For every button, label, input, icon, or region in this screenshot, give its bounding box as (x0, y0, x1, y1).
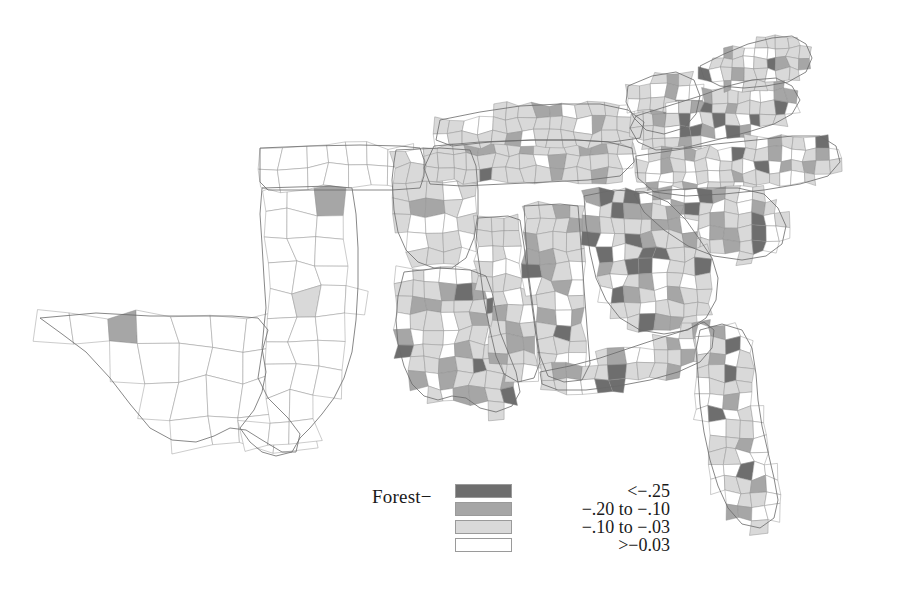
county-polygon (408, 371, 428, 391)
county-polygon (695, 273, 712, 290)
county-polygon (488, 353, 508, 364)
county-polygon (491, 167, 508, 183)
county-polygon (667, 260, 685, 274)
county-polygon (654, 314, 671, 331)
county-polygon (550, 116, 563, 129)
county-polygon (752, 225, 767, 242)
county-polygon (682, 232, 697, 249)
map-legend: Forest− <−.25−.20 to −.10−.10 to −.03>−0… (372, 476, 672, 564)
county-polygon (611, 286, 624, 303)
forest-change-legend-title: Forest− (372, 486, 432, 508)
county-polygon (637, 348, 655, 363)
county-polygon (522, 201, 540, 218)
legend-label-class-2: −.20 to −.10 (524, 500, 670, 518)
legend-label-class-1: <−.25 (524, 482, 670, 500)
county-polygon (731, 68, 744, 82)
county-polygon (764, 213, 776, 226)
county-polygon (697, 302, 713, 315)
county-polygon (596, 247, 614, 263)
legend-swatch-column (455, 484, 515, 556)
county-polygon (595, 348, 607, 365)
county-polygon (625, 362, 638, 380)
county-polygon (611, 202, 624, 219)
county-polygon (624, 203, 642, 219)
county-polygon (441, 301, 454, 313)
county-polygon (315, 237, 348, 267)
county-polygon (697, 289, 712, 304)
county-polygon (289, 419, 323, 445)
county-polygon (744, 134, 758, 150)
county-polygon (640, 84, 651, 99)
county-polygon (768, 146, 782, 162)
county-polygon (137, 343, 179, 384)
county-polygon (639, 314, 656, 333)
county-polygon (638, 98, 651, 111)
county-polygon (439, 282, 457, 301)
county-polygon (774, 212, 790, 228)
county-polygon (712, 103, 728, 113)
county-polygon (69, 313, 109, 344)
county-polygon (814, 160, 830, 174)
county-polygon (723, 393, 740, 411)
county-polygon (33, 310, 74, 345)
county-polygon (665, 113, 681, 127)
county-polygon (725, 364, 737, 383)
county-polygon (635, 173, 646, 183)
county-polygon (640, 301, 656, 314)
county-polygon (408, 356, 425, 372)
county-polygon (408, 215, 426, 234)
county-polygon (740, 420, 754, 438)
county-polygon (552, 362, 567, 380)
county-polygon (666, 101, 679, 114)
legend-label-class-4: >−0.03 (524, 536, 670, 554)
county-polygon (816, 148, 830, 161)
legend-swatch-class-2 (455, 502, 512, 516)
county-polygon (277, 146, 307, 170)
county-polygon (750, 100, 761, 114)
figure-canvas: Forest− <−.25−.20 to −.10−.10 to −.03>−0… (0, 0, 902, 593)
county-polygon (505, 131, 523, 146)
county-polygon (210, 315, 247, 352)
county-polygon (816, 135, 830, 149)
county-polygon (571, 308, 584, 327)
county-polygon (475, 276, 494, 292)
county-polygon (437, 153, 454, 169)
county-polygon (475, 229, 493, 246)
county-polygon (453, 385, 470, 405)
county-polygon (679, 339, 696, 350)
county-polygon (725, 125, 740, 138)
county-polygon (798, 59, 810, 71)
county-polygon (760, 100, 776, 115)
county-polygon (582, 215, 601, 233)
county-polygon (423, 331, 444, 345)
county-polygon (791, 170, 805, 185)
county-polygon (684, 302, 698, 317)
county-polygon (549, 103, 562, 117)
county-polygon (770, 173, 780, 186)
county-polygon (723, 239, 740, 253)
county-polygon (750, 114, 761, 126)
county-polygon (492, 231, 504, 247)
county-polygon (710, 225, 725, 240)
county-polygon (437, 168, 455, 182)
county-polygon (738, 506, 752, 521)
county-polygon (726, 419, 740, 438)
county-polygon (644, 126, 654, 141)
county-polygon (570, 323, 587, 342)
county-polygon (720, 161, 733, 171)
county-polygon (268, 422, 290, 445)
county-polygon (136, 310, 179, 344)
county-polygon (780, 170, 792, 186)
county-polygon (548, 154, 567, 169)
county-polygon (646, 160, 661, 175)
county-polygon (769, 161, 782, 174)
county-polygon (750, 492, 767, 508)
county-polygon (424, 356, 439, 374)
county-polygon (743, 56, 754, 69)
legend-label-class-3: −.10 to −.03 (524, 518, 670, 536)
county-polygon (724, 212, 738, 228)
county-polygon (318, 340, 345, 370)
county-polygon (718, 147, 733, 161)
county-polygon (623, 286, 641, 303)
county-polygon (708, 170, 721, 182)
